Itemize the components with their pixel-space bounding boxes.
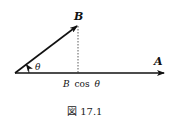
figure-caption: 図 17.1 [67, 106, 102, 117]
vector-projection-diagram: B A θ B cos θ 図 17.1 [0, 0, 175, 129]
label-theta: θ [35, 62, 41, 72]
label-projection: B cos θ [62, 79, 100, 89]
label-b: B [73, 10, 83, 23]
vector-b [15, 26, 77, 73]
angle-arc [27, 65, 30, 73]
label-a: A [153, 55, 163, 68]
